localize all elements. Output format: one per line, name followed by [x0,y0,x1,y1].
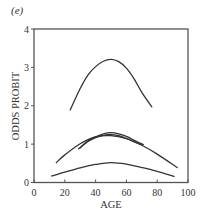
y-tick-label: 1 [24,139,29,150]
series-line-curve-bottom [52,163,174,177]
odds-probit-chart: 020406080100 01234 AGE ODDS PROBIT [0,0,206,221]
x-tick-label: 80 [152,187,162,198]
x-tick-label: 60 [121,187,131,198]
data-series [52,59,178,176]
y-tick-label: 2 [24,100,29,111]
x-tick-label: 20 [60,187,70,198]
y-tick-label: 4 [24,24,29,35]
y-tick-label: 3 [24,62,29,73]
x-tick-label: 40 [91,187,101,198]
x-axis-label: AGE [100,199,122,210]
y-axis-ticks: 01234 [24,24,34,189]
x-tick-label: 100 [181,187,196,198]
series-line-curve-cluster-inner [80,135,142,148]
y-axis-label: ODDS PROBIT [10,71,21,140]
x-tick-label: 0 [32,187,37,198]
series-line-curve-top [70,59,152,110]
y-tick-label: 0 [24,177,29,188]
